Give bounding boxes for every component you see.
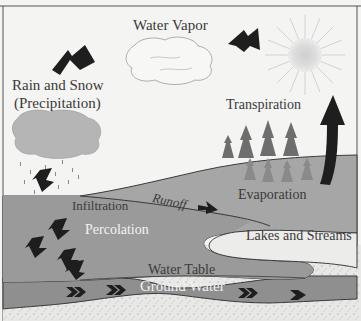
sun-icon: [265, 15, 345, 95]
label-ground-water: Ground Water: [140, 279, 225, 294]
label-transpiration: Transpiration: [226, 98, 301, 112]
label-water-table: Water Table: [148, 263, 215, 277]
label-infiltration: Infiltration: [72, 199, 128, 212]
label-lakes-streams: Lakes and Streams: [246, 229, 352, 243]
label-water-vapor: Water Vapor: [133, 18, 208, 33]
rain-cloud-icon: [12, 110, 100, 159]
label-percolation: Percolation: [85, 223, 149, 237]
label-rain-snow: Rain and Snow: [12, 78, 104, 93]
label-evaporation: Evaporation: [238, 188, 306, 202]
label-precipitation: (Precipitation): [14, 96, 101, 111]
